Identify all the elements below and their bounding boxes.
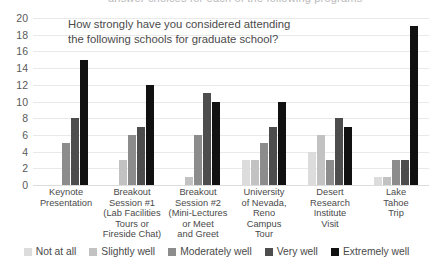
bar-group: [297, 18, 363, 185]
y-axis-tick-label: 14: [16, 62, 28, 74]
bar: [260, 143, 268, 185]
bar: [71, 118, 79, 185]
x-axis-label-line: Lake: [363, 187, 429, 198]
bar: [128, 135, 136, 185]
bar: [317, 135, 325, 185]
bar: [185, 177, 193, 185]
legend-label: Slightly well: [101, 246, 155, 257]
x-axis-label-line: Session #1: [99, 198, 165, 209]
x-axis-category-label: KeynotePresentation: [33, 187, 99, 240]
legend-label: Moderately well: [180, 246, 252, 257]
legend-label: Extremely well: [343, 246, 409, 257]
x-axis-label-line: Trip: [363, 208, 429, 219]
bar: [335, 118, 343, 185]
legend-item[interactable]: Slightly well: [89, 246, 155, 257]
bar: [401, 160, 409, 185]
bar: [344, 127, 352, 185]
x-axis-label-line: (Lab Facilities: [99, 208, 165, 219]
x-axis-label-line: Breakout: [165, 187, 231, 198]
x-axis-label-line: Campus: [231, 219, 297, 230]
x-axis-label-line: Tours or: [99, 219, 165, 230]
bar: [383, 177, 391, 185]
x-axis-label-line: Research: [297, 198, 363, 209]
bar: [212, 102, 220, 186]
bar: [326, 160, 334, 185]
x-axis-label-line: of Nevada,: [231, 198, 297, 209]
x-axis-label-line: University: [231, 187, 297, 198]
y-axis-tick-label: 2: [22, 162, 28, 174]
bar-group: [165, 18, 231, 185]
x-axis-label-line: or Meet: [165, 219, 231, 230]
x-axis-category-label: Universityof Nevada,RenoCampusTour: [231, 187, 297, 240]
x-axis-label-line: Breakout: [99, 187, 165, 198]
x-axis-label-line: and Greet: [165, 229, 231, 240]
legend-swatch-icon: [89, 248, 97, 256]
bar: [251, 160, 259, 185]
y-axis-tick-label: 20: [16, 12, 28, 24]
x-axis-label-line: Presentation: [33, 198, 99, 209]
x-axis-label-line: (Mini-Lectures: [165, 208, 231, 219]
x-axis-label-line: Desert: [297, 187, 363, 198]
legend-label: Not at all: [36, 246, 77, 257]
y-axis-tick-label: 6: [22, 129, 28, 141]
bar: [269, 127, 277, 185]
y-axis-tick-label: 12: [16, 79, 28, 91]
y-axis-tick-label: 10: [16, 96, 28, 108]
bar: [392, 160, 400, 185]
x-axis-label-line: Institute: [297, 208, 363, 219]
bar-group: [33, 18, 99, 185]
x-axis-label-line: Tour: [231, 229, 297, 240]
y-axis-tick-label: 8: [22, 112, 28, 124]
y-axis-tick-label: 18: [16, 29, 28, 41]
cutoff-header-label: answer choices for each of the following…: [108, 0, 362, 4]
x-axis-label-line: Keynote: [33, 187, 99, 198]
bar: [194, 135, 202, 185]
bar: [119, 160, 127, 185]
x-axis-label-line: Reno: [231, 208, 297, 219]
x-axis-label-line: Session #2: [165, 198, 231, 209]
y-axis-tick-label: 0: [22, 179, 28, 191]
legend-item[interactable]: Very well: [265, 246, 318, 257]
legend-swatch-icon: [265, 248, 273, 256]
bar-group: [231, 18, 297, 185]
bar: [278, 102, 286, 186]
x-axis-category-label: BreakoutSession #2(Mini-Lecturesor Meeta…: [165, 187, 231, 240]
bar: [374, 177, 382, 185]
chart-legend: Not at allSlightly wellModerately wellVe…: [0, 246, 433, 257]
bar: [137, 127, 145, 185]
bar: [146, 85, 154, 185]
x-axis-label-line: Fireside Chat): [99, 229, 165, 240]
x-axis-category-label: DesertResearchInstituteVisit: [297, 187, 363, 240]
plot-area: 02468101214161820 How strongly have you …: [33, 18, 429, 185]
gridline: [33, 185, 429, 186]
bar-groups: [33, 18, 429, 185]
bar-chart: answer choices for each of the following…: [0, 0, 433, 265]
bar: [203, 93, 211, 185]
bar: [410, 26, 418, 185]
x-axis-label-line: Tahoe: [363, 198, 429, 209]
x-axis-label-line: Visit: [297, 219, 363, 230]
legend-label: Very well: [277, 246, 318, 257]
y-axis-tick-label: 16: [16, 45, 28, 57]
y-axis-tick-label: 4: [22, 146, 28, 158]
bar: [80, 60, 88, 185]
x-axis-category-label: BreakoutSession #1(Lab FacilitiesTours o…: [99, 187, 165, 240]
bar-group: [363, 18, 429, 185]
legend-swatch-icon: [168, 248, 176, 256]
legend-swatch-icon: [331, 248, 339, 256]
legend-item[interactable]: Moderately well: [168, 246, 252, 257]
bar: [242, 160, 250, 185]
cutoff-header-text: answer choices for each of the following…: [0, 0, 433, 9]
bar: [62, 143, 70, 185]
legend-swatch-icon: [24, 248, 32, 256]
legend-item[interactable]: Not at all: [24, 246, 77, 257]
legend-item[interactable]: Extremely well: [331, 246, 409, 257]
x-axis-category-label: LakeTahoeTrip: [363, 187, 429, 240]
bar-group: [99, 18, 165, 185]
bar: [308, 152, 316, 185]
x-axis-labels: KeynotePresentationBreakoutSession #1(La…: [33, 187, 429, 240]
